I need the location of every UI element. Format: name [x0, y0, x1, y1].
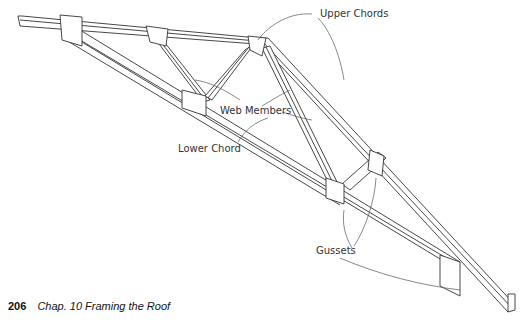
upper-chords-label: Upper Chords [320, 8, 388, 19]
gussets-label: Gussets [316, 245, 356, 256]
web-members-label: Web Members [220, 105, 291, 116]
chapter-caption: Chap. 10 Framing the Roof [37, 300, 170, 312]
lower-chord [62, 30, 460, 268]
page-footer: 206 Chap. 10 Framing the Roof [8, 300, 170, 312]
page-number: 206 [8, 300, 26, 312]
truss-illustration [0, 0, 525, 326]
lower-chord-label: Lower Chord [178, 143, 241, 154]
